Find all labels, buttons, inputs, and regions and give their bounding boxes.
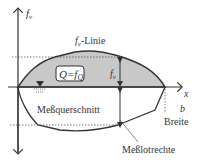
vertical-leader — [120, 120, 138, 142]
x-axis-label: x — [183, 88, 189, 99]
width-label: Breite — [164, 116, 189, 127]
width-symbol: b — [180, 103, 185, 114]
measuring-vertical-label: Meßlotrechte — [122, 144, 176, 155]
y-axis-label: fv — [26, 7, 33, 21]
fv-line-label: fv-Linie — [75, 35, 106, 48]
discharge-diagram: Q=fQ fv fv-Linie fv x Meßquerschnitt b B… — [0, 0, 198, 162]
cross-section-label: Meßquerschnitt — [37, 104, 100, 115]
